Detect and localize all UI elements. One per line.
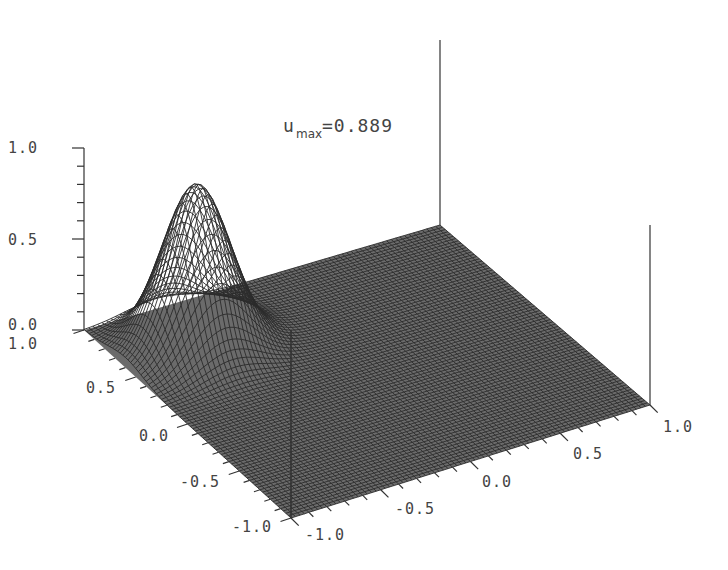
surface-mesh: [84, 184, 650, 518]
y-tick-0.0: 0.0: [139, 427, 169, 445]
y-tick-1.0: 1.0: [8, 335, 38, 353]
x-tick-0.5: 0.5: [573, 445, 603, 463]
x-tick-neg1.0: -1.0: [305, 526, 345, 544]
z-tick-0.5: 0.5: [8, 231, 38, 249]
x-tick-0.0: 0.0: [482, 473, 512, 491]
y-tick-neg0.5: -0.5: [180, 473, 220, 491]
y-tick-neg1.0: -1.0: [232, 518, 272, 536]
x-tick-neg0.5: -0.5: [395, 500, 435, 518]
title-u: u: [283, 115, 295, 136]
surface-plot: u max =0.889 1.0 0.5 0.0 1.0 0.5 0.0 -0.…: [0, 0, 728, 570]
z-tick-1.0: 1.0: [8, 139, 38, 157]
x-tick-1.0: 1.0: [663, 418, 693, 436]
y-tick-0.5: 0.5: [86, 379, 116, 397]
title-subscript: max: [296, 127, 322, 141]
title-value: =0.889: [322, 115, 393, 136]
z-tick-0.0: 0.0: [8, 316, 38, 334]
